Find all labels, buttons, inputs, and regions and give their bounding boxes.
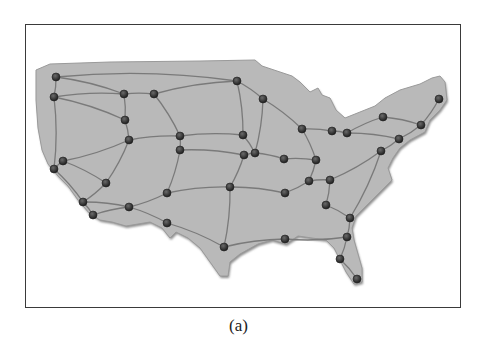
city-node-icon: [395, 135, 403, 143]
city-node-icon: [305, 177, 313, 185]
city-node-icon: [298, 125, 306, 133]
city-node-icon: [50, 165, 58, 173]
city-node-icon: [226, 183, 234, 191]
city-node-icon: [220, 243, 228, 251]
city-node-icon: [120, 90, 128, 98]
city-node-icon: [322, 201, 330, 209]
city-node-icon: [239, 131, 247, 139]
city-node-icon: [125, 203, 133, 211]
us-road-network-map: [0, 0, 477, 350]
city-node-icon: [281, 235, 289, 243]
city-node-icon: [102, 179, 110, 187]
city-node-icon: [259, 95, 267, 103]
city-node-icon: [328, 127, 336, 135]
city-node-icon: [59, 157, 67, 165]
figure-caption: (a): [0, 316, 477, 336]
city-node-icon: [50, 93, 58, 101]
city-node-icon: [233, 77, 241, 85]
city-node-icon: [435, 95, 443, 103]
city-node-icon: [377, 147, 385, 155]
city-node-icon: [125, 136, 133, 144]
city-node-icon: [89, 211, 97, 219]
city-node-icon: [417, 121, 425, 129]
city-node-icon: [163, 189, 171, 197]
city-node-icon: [280, 155, 288, 163]
city-node-icon: [79, 198, 87, 206]
city-node-icon: [163, 219, 171, 227]
city-node-icon: [240, 151, 248, 159]
figure: (a): [0, 0, 477, 350]
city-node-icon: [176, 146, 184, 154]
city-node-icon: [343, 233, 351, 241]
city-node-icon: [52, 73, 60, 81]
city-node-icon: [150, 90, 158, 98]
city-node-icon: [281, 189, 289, 197]
city-node-icon: [251, 149, 259, 157]
city-node-icon: [379, 113, 387, 121]
city-node-icon: [336, 255, 344, 263]
city-node-icon: [176, 132, 184, 140]
city-node-icon: [312, 156, 320, 164]
city-node-icon: [326, 176, 334, 184]
city-node-icon: [353, 275, 361, 283]
city-node-icon: [343, 129, 351, 137]
city-node-icon: [121, 116, 129, 124]
city-node-icon: [346, 214, 354, 222]
